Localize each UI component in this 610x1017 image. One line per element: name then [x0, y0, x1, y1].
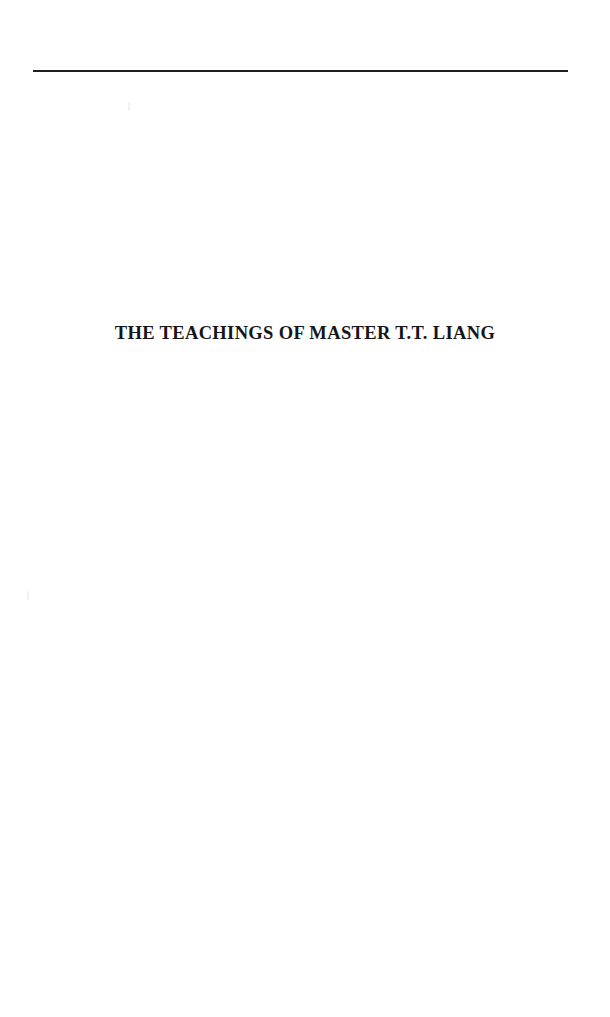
book-page: THE TEACHINGS OF MASTER T.T. LIANG: [0, 0, 610, 1017]
page-title: THE TEACHINGS OF MASTER T.T. LIANG: [115, 322, 495, 344]
scan-speck-upper-icon: [128, 102, 130, 111]
top-horizontal-rule: [33, 70, 568, 72]
scan-speck-lower-icon: [27, 591, 29, 600]
part-title-block: THE TEACHINGS OF MASTER T.T. LIANG: [0, 322, 610, 344]
